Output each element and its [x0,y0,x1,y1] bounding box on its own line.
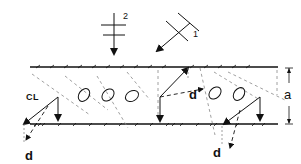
diagram-canvas: 2 1 CL d d d a [0,0,301,164]
spacing-label: a [284,88,291,101]
wave-2-label: 2 [123,12,128,21]
top-plane [30,65,278,68]
right-displacement-arrows [222,97,260,148]
displacement-label-center: d [189,88,197,101]
centerline-label: CL [26,93,39,102]
displacement-label-left: d [25,149,33,162]
displacement-label-right: d [213,146,221,159]
bottom-plane [30,123,278,126]
orbit-ellipses [76,85,247,104]
left-displacement-arrows [24,97,58,143]
wave-1-label: 1 [193,30,198,39]
wavefront-dashes [32,68,285,135]
